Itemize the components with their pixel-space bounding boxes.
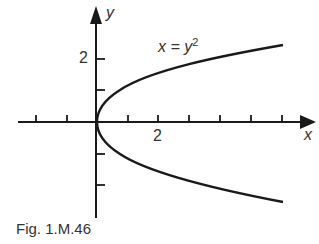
parabola-curve [97,45,283,202]
y-axis-label: y [106,4,114,22]
y-axis-arrow-icon [90,6,102,24]
equation-text: x = y [158,38,192,55]
equation-exponent: 2 [192,36,198,48]
y-tick-label-2: 2 [79,49,88,67]
x-axis-label: x [304,126,312,144]
x-tick-label-2: 2 [153,127,162,145]
x-ticks [36,115,282,122]
equation-label: x = y2 [158,36,198,56]
figure-caption: Fig. 1.M.46 [16,220,91,237]
